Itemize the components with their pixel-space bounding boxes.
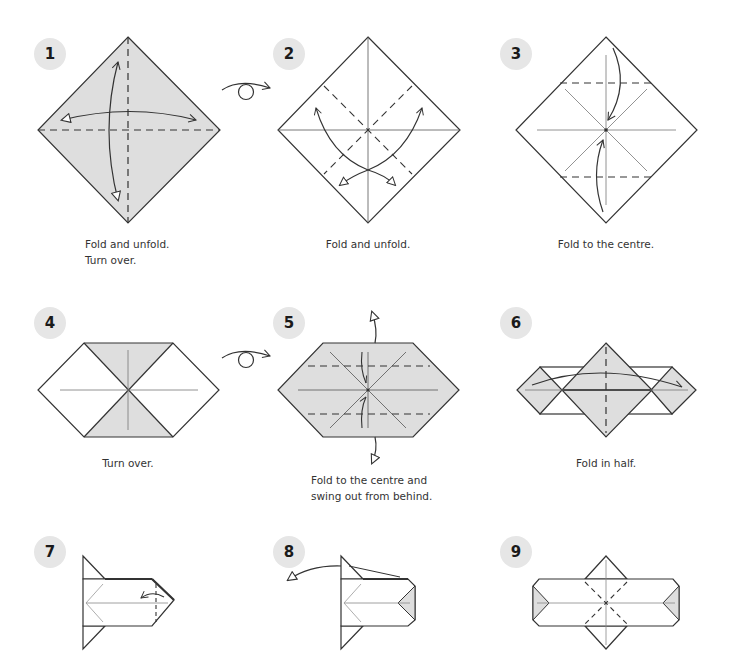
caption-line: Fold in half. — [576, 455, 636, 471]
step-number: 7 — [45, 543, 55, 561]
step-3-diagram — [516, 37, 697, 223]
step-number: 6 — [511, 314, 521, 332]
step-9-diagram — [533, 556, 679, 649]
step-5-caption: Fold to the centre and swing out from be… — [311, 472, 432, 504]
step-2-caption: Fold and unfold. — [326, 236, 410, 252]
step-1-diagram — [38, 37, 220, 223]
step-number: 4 — [45, 314, 55, 332]
step-badge-3: 3 — [500, 38, 532, 70]
step-badge-1: 1 — [34, 38, 66, 70]
step-7-diagram — [83, 556, 174, 649]
caption-line: swing out from behind. — [311, 488, 432, 504]
step-2-diagram — [278, 37, 460, 223]
caption-line: Fold and unfold. — [326, 236, 410, 252]
step-badge-7: 7 — [34, 536, 66, 568]
step-4-caption: Turn over. — [102, 455, 153, 471]
caption-line: Fold and unfold. — [85, 236, 169, 252]
caption-line: Fold to the centre. — [558, 236, 654, 252]
step-6-diagram — [517, 343, 696, 437]
step-6-caption: Fold in half. — [576, 455, 636, 471]
step-badge-6: 6 — [500, 307, 532, 339]
step-3-caption: Fold to the centre. — [558, 236, 654, 252]
step-4-diagram — [38, 343, 219, 437]
turn-over-icon — [222, 83, 270, 99]
caption-line: Turn over. — [102, 455, 153, 471]
step-badge-2: 2 — [273, 38, 305, 70]
step-8-diagram — [288, 556, 415, 649]
step-number: 8 — [284, 543, 294, 561]
step-badge-9: 9 — [500, 536, 532, 568]
step-number: 9 — [511, 543, 521, 561]
step-badge-8: 8 — [273, 536, 305, 568]
step-number: 2 — [284, 45, 294, 63]
step-badge-5: 5 — [273, 307, 305, 339]
step-1-caption: Fold and unfold. Turn over. — [85, 236, 169, 268]
turn-over-icon — [222, 351, 270, 367]
step-number: 5 — [284, 314, 294, 332]
step-badge-4: 4 — [34, 307, 66, 339]
caption-line: Fold to the centre and — [311, 472, 432, 488]
step-number: 3 — [511, 45, 521, 63]
step-5-diagram — [278, 312, 459, 463]
step-number: 1 — [45, 45, 55, 63]
caption-line: Turn over. — [85, 252, 169, 268]
diagram-canvas — [0, 0, 730, 653]
